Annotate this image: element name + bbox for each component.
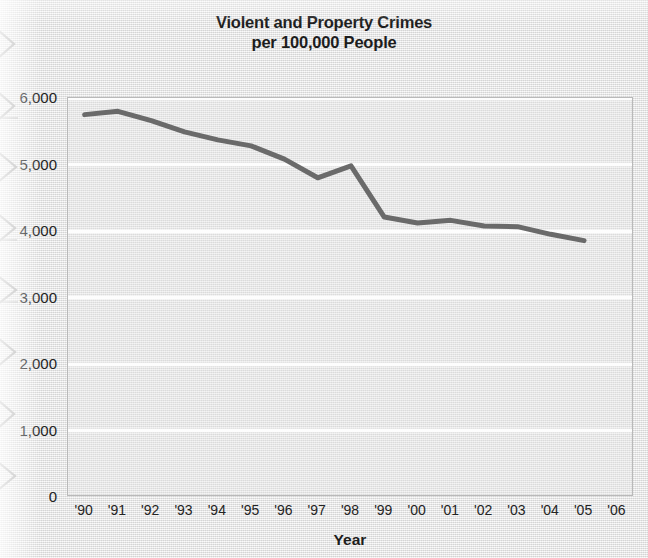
y-tick-0: 0 (0, 488, 57, 505)
x-tick-96: '96 (274, 502, 292, 518)
x-tick-95: '95 (241, 502, 259, 518)
x-tick-02: '02 (474, 502, 492, 518)
x-tick-93: '93 (174, 502, 192, 518)
x-tick-06: '06 (607, 502, 625, 518)
y-tick-6000: 6,000 (0, 89, 57, 106)
x-tick-94: '94 (208, 502, 226, 518)
x-tick-05: '05 (574, 502, 592, 518)
x-axis-title: Year (67, 531, 633, 549)
x-tick-01: '01 (441, 502, 459, 518)
y-tick-5000: 5,000 (0, 155, 57, 172)
x-tick-91: '91 (108, 502, 126, 518)
y-tick-3000: 3,000 (0, 288, 57, 305)
x-tick-00: '00 (407, 502, 425, 518)
series-layer (68, 98, 632, 495)
x-tick-98: '98 (341, 502, 359, 518)
line-chart: 01,0002,0003,0004,0005,0006,000 '90'91'9… (0, 0, 648, 558)
x-tick-04: '04 (541, 502, 559, 518)
x-tick-97: '97 (308, 502, 326, 518)
x-tick-03: '03 (507, 502, 525, 518)
x-tick-92: '92 (141, 502, 159, 518)
plot-area (67, 97, 633, 496)
y-tick-1000: 1,000 (0, 421, 57, 438)
x-tick-99: '99 (374, 502, 392, 518)
x-tick-90: '90 (75, 502, 93, 518)
y-tick-4000: 4,000 (0, 222, 57, 239)
y-tick-2000: 2,000 (0, 355, 57, 372)
data-line-crime-rate (85, 111, 584, 240)
